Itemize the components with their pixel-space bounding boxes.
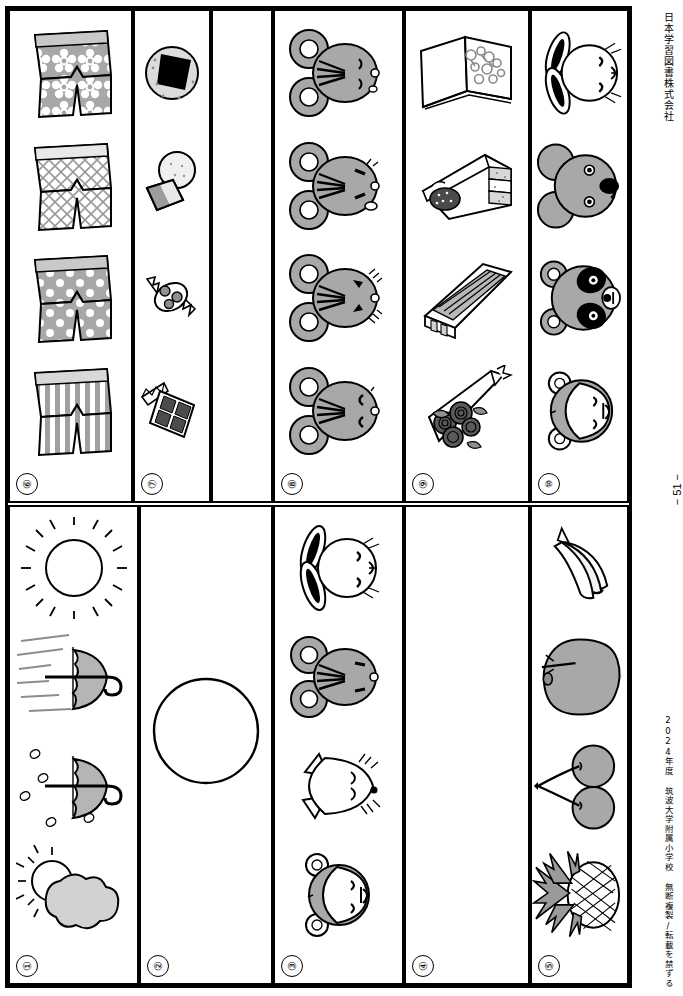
panel-blank-top[interactable] xyxy=(211,9,273,503)
monkey-face xyxy=(275,840,402,949)
mouse-face-smiling xyxy=(275,17,402,130)
onigiri xyxy=(135,17,209,130)
empty-circle xyxy=(141,675,271,787)
picture-book xyxy=(406,17,528,130)
mouse-face xyxy=(275,622,402,731)
mouse-face-surprised xyxy=(275,130,402,243)
panel-index-5: ⑤ xyxy=(538,955,560,977)
shorts-polkadot-pattern xyxy=(10,242,131,355)
chocolate-bar xyxy=(135,355,209,468)
copyright-text: 2024年度 筑波大学附属小学校 無断複製/転載を禁ずる xyxy=(664,715,673,988)
panel-animal-faces-outline[interactable]: ③ xyxy=(273,505,404,985)
panel-animal-faces-filled[interactable]: ⑩ xyxy=(530,9,629,503)
panel-index-6: ⑥ xyxy=(16,473,38,495)
rabbit-face xyxy=(532,17,627,130)
panel-gifts[interactable]: ⑨ xyxy=(404,9,530,503)
wrapped-candy xyxy=(135,242,209,355)
shorts-lattice-pattern xyxy=(10,130,131,243)
koala-face xyxy=(532,130,627,243)
page-number: − 51 − xyxy=(671,474,683,505)
mouse-face-crying xyxy=(275,242,402,355)
sun-cloud-icon xyxy=(10,840,137,949)
mouse-face-neutral xyxy=(275,355,402,468)
panel-mouse-faces[interactable]: ⑧ xyxy=(273,9,404,503)
panel-fruits[interactable]: ⑤ xyxy=(530,505,629,985)
shorts-stripe-pattern xyxy=(10,355,131,468)
panel-index-9: ⑨ xyxy=(412,473,434,495)
rabbit-face xyxy=(275,513,402,622)
panel-index-7: ⑦ xyxy=(141,473,163,495)
pencil-box xyxy=(406,242,528,355)
panel-shorts[interactable]: ⑥ xyxy=(8,9,133,503)
rice-cracker-and-cake xyxy=(135,130,209,243)
panel-snacks[interactable]: ⑦ xyxy=(133,9,211,503)
umbrella-rain-icon xyxy=(10,731,137,840)
cake-slice xyxy=(406,130,528,243)
apple xyxy=(532,622,627,731)
flower-bouquet xyxy=(406,355,528,468)
shorts-flower-pattern xyxy=(10,17,131,130)
umbrella-windy-icon xyxy=(10,622,137,731)
panel-index-10: ⑩ xyxy=(538,473,560,495)
panel-index-8: ⑧ xyxy=(281,473,303,495)
panel-weather[interactable]: ① xyxy=(8,505,139,985)
panel-index-4: ④ xyxy=(412,955,434,977)
pineapple xyxy=(532,840,627,949)
panel-index-2: ② xyxy=(147,955,169,977)
panel-index-1: ① xyxy=(16,955,38,977)
publisher-text: 日本学習図書株式会社 xyxy=(662,12,672,122)
panel-blank-bottom[interactable]: ④ xyxy=(404,505,530,985)
banana xyxy=(532,513,627,622)
panel-circle[interactable]: ② xyxy=(139,505,273,985)
cherries xyxy=(532,731,627,840)
panda-face xyxy=(532,242,627,355)
sun-icon xyxy=(10,513,137,622)
bottom-band: ① ② xyxy=(8,505,629,985)
panel-index-3: ③ xyxy=(281,955,303,977)
top-band: ⑥ xyxy=(8,9,629,503)
cat-face xyxy=(275,731,402,840)
monkey-face xyxy=(532,355,627,468)
